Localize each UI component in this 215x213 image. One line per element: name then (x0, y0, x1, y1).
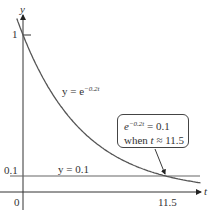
callout-line-1: e−0.2t = 0.1 (124, 117, 188, 133)
curve-label: y = e−0.2t (62, 86, 100, 97)
curve-label-prefix: y = e (62, 85, 84, 97)
y-tick-label-0.1: 0.1 (4, 165, 18, 176)
x-tick-label-11.5: 11.5 (158, 197, 177, 208)
curve-label-exponent: −0.2t (84, 85, 99, 93)
exp-decay-curve (17, 19, 201, 183)
callout-line-2: when t ≈ 11.5 (124, 133, 188, 147)
chart-canvas (0, 0, 215, 213)
y-axis-label: y (20, 4, 25, 15)
callout-arrow (155, 149, 165, 174)
origin-label: 0 (14, 197, 20, 208)
hline-label: y = 0.1 (58, 164, 89, 175)
y-tick-label-1: 1 (12, 29, 18, 40)
t-axis-label: t (204, 186, 207, 197)
callout-box: e−0.2t = 0.1 when t ≈ 11.5 (117, 114, 189, 148)
